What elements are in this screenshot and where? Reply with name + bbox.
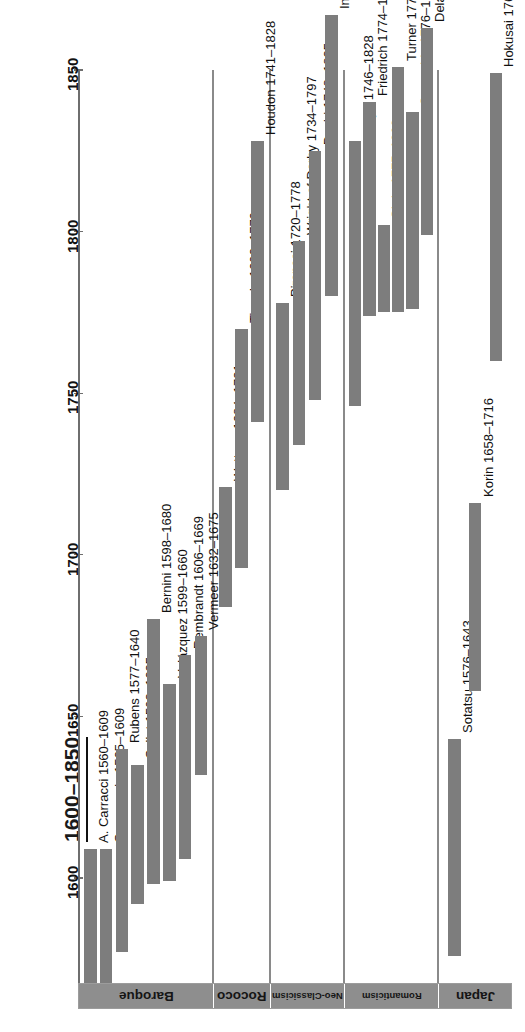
group-label-romanticism[interactable]: Romanticism	[345, 984, 439, 1008]
bar-david[interactable]	[309, 151, 322, 400]
year-tick-label-1650: 1650	[64, 704, 81, 737]
timeline-chart: 160016501700175018001850 A. Carracci 156…	[78, 40, 512, 983]
bar-goya[interactable]	[349, 141, 362, 406]
bar-label-korin: Korin 1658–1716	[481, 398, 496, 497]
bar-houdon[interactable]	[251, 141, 264, 422]
year-tick-label-1600: 1600	[64, 866, 81, 899]
bar-piranesi[interactable]	[276, 303, 289, 490]
group-label-text: Rococo	[217, 989, 267, 1004]
year-axis-line	[78, 70, 80, 983]
bar-label-rembrandt: Rembrandt 1606–1669	[191, 516, 206, 649]
bar-bernini[interactable]	[147, 619, 160, 884]
year-tick-label-1700: 1700	[64, 542, 81, 575]
year-tick-label-1800: 1800	[64, 219, 81, 252]
bar-label-turner: Turner 1775–1851	[404, 0, 419, 61]
bar-turner[interactable]	[392, 67, 405, 313]
group-label-neo-classicism[interactable]: Neo-Classicism	[271, 984, 345, 1008]
bar-tiepolo[interactable]	[235, 329, 248, 568]
bar-label-houdon: Houdon 1741–1828	[263, 21, 278, 135]
group-separator-3	[343, 70, 344, 983]
group-separator-2	[269, 70, 270, 983]
bar-wright-of-derby[interactable]	[293, 241, 306, 445]
bar-label-bernini: Bernini 1598–1680	[159, 504, 174, 613]
bar-sotatsu[interactable]	[448, 739, 461, 956]
bar-label-rubens: Rubens 1577–1640	[127, 629, 142, 743]
bar-friedrich[interactable]	[363, 102, 376, 315]
bar-label-friedrich: Friedrich 1774–1840	[375, 0, 390, 96]
bar-vel-zquez[interactable]	[163, 684, 176, 881]
bar-constable[interactable]	[406, 112, 419, 309]
bar-ingres[interactable]	[325, 15, 338, 296]
group-label-text: Neo-Classicism	[272, 991, 343, 1002]
bar-label-hokusai: Hokusai 1760–1849	[501, 0, 516, 67]
bar-rubens[interactable]	[116, 749, 129, 953]
bar-label-delacroix: Delacroix 1799–1863	[432, 0, 447, 22]
group-label-text: Baroque	[119, 989, 174, 1004]
bar-callot[interactable]	[131, 765, 144, 904]
bar-vermeer[interactable]	[195, 636, 208, 775]
year-tick-label-1750: 1750	[64, 381, 81, 414]
bar-hokusai[interactable]	[490, 73, 503, 361]
group-label-baroque[interactable]: Baroque	[79, 984, 214, 1008]
bar-caravaggio[interactable]	[100, 849, 113, 991]
group-label-japan[interactable]: Japan	[439, 984, 513, 1008]
year-tick-label-1850: 1850	[64, 58, 81, 91]
group-separator-4	[437, 70, 438, 983]
bar-label-a-carracci: A. Carracci 1560–1609	[96, 710, 111, 843]
group-band: BaroqueRococoNeo-ClassicismRomanticismJa…	[78, 983, 512, 1009]
group-label-rococo[interactable]: Rococo	[214, 984, 271, 1008]
bar-label-ingres: Ingres 1780–1867	[337, 0, 352, 9]
bar-watteau[interactable]	[219, 487, 232, 607]
group-label-text: Romanticism	[362, 991, 422, 1002]
bar-rembrandt[interactable]	[179, 655, 192, 859]
bar-girtin[interactable]	[378, 225, 391, 312]
bar-korin[interactable]	[469, 503, 482, 690]
bar-delacroix[interactable]	[421, 28, 434, 235]
group-label-text: Japan	[456, 989, 495, 1004]
